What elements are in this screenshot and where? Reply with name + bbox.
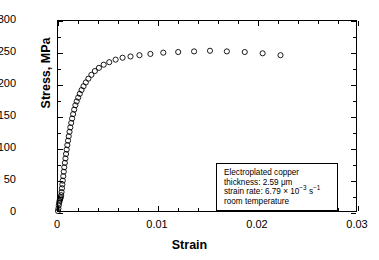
data-point xyxy=(242,49,247,54)
data-point xyxy=(161,50,166,55)
data-point xyxy=(224,49,229,54)
y-axis-title: Stress, MPa xyxy=(39,25,53,121)
data-point xyxy=(120,55,125,60)
tick-mark xyxy=(351,213,356,214)
anno-line-temperature: room temperature xyxy=(224,197,331,207)
anno-strain-rate-prefix: strain rate: 6.79 × 10 xyxy=(224,187,299,196)
tick-mark xyxy=(358,21,359,26)
x-tick-label: 0.03 xyxy=(332,219,379,230)
data-point xyxy=(176,49,181,54)
data-point xyxy=(101,62,106,67)
data-point xyxy=(137,53,142,58)
data-point xyxy=(107,60,112,65)
data-point xyxy=(148,51,153,56)
anno-strain-rate-unit-exponent: −1 xyxy=(313,184,320,191)
data-point xyxy=(113,57,118,62)
annotation-box: Electroplated copper thickness: 2.59 μm … xyxy=(216,163,338,211)
x-axis-title: Strain xyxy=(0,238,379,252)
anno-line-material: Electroplated copper xyxy=(224,168,331,178)
x-tick-label: 0.02 xyxy=(232,219,282,230)
y-tick-label: 0 xyxy=(10,206,16,217)
data-point xyxy=(96,65,101,70)
anno-strain-rate-exponent: −3 xyxy=(299,184,306,191)
x-tick-label: 0.01 xyxy=(132,219,182,230)
x-tick-label: 0 xyxy=(32,219,82,230)
y-tick-label: 150 xyxy=(0,110,16,121)
y-tick-label: 200 xyxy=(0,78,16,89)
stress-strain-chart: Stress, MPa Strain 050100150200250300 00… xyxy=(0,0,379,260)
y-tick-label: 50 xyxy=(4,174,16,185)
data-point xyxy=(260,51,265,56)
data-point xyxy=(207,48,212,53)
tick-mark xyxy=(358,206,359,211)
y-tick-label: 300 xyxy=(0,14,16,25)
anno-line-strain-rate: strain rate: 6.79 × 10−3 s−1 xyxy=(224,187,331,197)
y-tick-label: 250 xyxy=(0,46,16,57)
data-point xyxy=(128,54,133,59)
y-tick-label: 100 xyxy=(0,142,16,153)
data-point xyxy=(192,49,197,54)
data-point xyxy=(278,53,283,58)
